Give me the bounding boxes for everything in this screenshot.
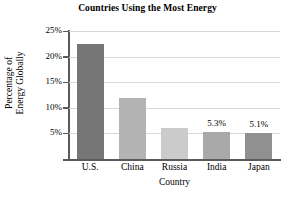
bar[interactable]: [245, 133, 272, 159]
bar[interactable]: [119, 98, 146, 159]
y-axis-tick: [63, 56, 69, 58]
bar[interactable]: [77, 44, 104, 159]
y-axis-tick: [63, 31, 69, 33]
bar[interactable]: [161, 128, 188, 159]
y-axis-tick: [63, 107, 69, 109]
y-axis-tick-labels: 5%10%15%20%25%: [26, 0, 62, 201]
y-axis-tick: [63, 82, 69, 84]
x-axis-title: Country: [69, 177, 280, 187]
x-axis-line: [63, 159, 281, 161]
y-axis-tick-label: 25%: [28, 26, 62, 35]
bar-value-label: 5.1%: [234, 120, 284, 129]
y-axis-tick-label: 5%: [28, 128, 62, 137]
x-axis-category-label: Japan: [229, 163, 289, 173]
y-axis-title-line-1: Percentage of: [4, 18, 15, 148]
bar-chart: Countries Using the Most Energy Percenta…: [0, 0, 295, 201]
gridline: [69, 31, 280, 32]
y-axis-tick-label: 10%: [28, 103, 62, 112]
y-axis-tick-label: 15%: [28, 77, 62, 86]
plot-area: 5.3%5.1%: [69, 31, 280, 159]
y-axis-title: Percentage of Energy Globally: [4, 18, 26, 148]
y-axis-tick: [63, 133, 69, 135]
bar[interactable]: [203, 132, 230, 159]
y-axis-title-line-2: Energy Globally: [15, 18, 26, 148]
y-axis-tick-label: 20%: [28, 52, 62, 61]
